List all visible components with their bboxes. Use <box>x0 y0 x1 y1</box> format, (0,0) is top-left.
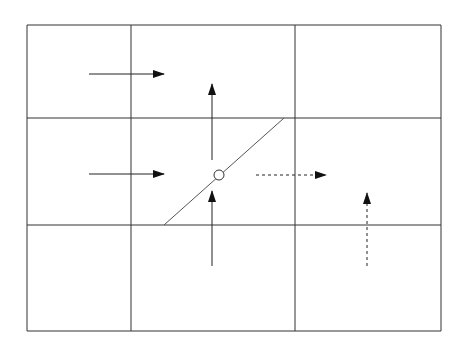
cell-marker-circle <box>214 170 224 180</box>
grid-flow-diagram <box>0 0 469 349</box>
grid-lines <box>27 25 441 331</box>
interface-line <box>164 118 284 225</box>
